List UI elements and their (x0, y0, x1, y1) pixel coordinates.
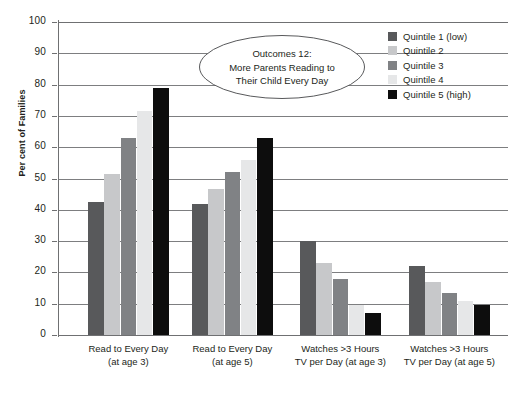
bar (208, 189, 224, 335)
y-tick-label: 90 (2, 46, 46, 57)
x-axis-label-line: TV per Day (at age 5) (389, 355, 509, 368)
x-axis-label-line: TV per Day (at age 3) (280, 355, 400, 368)
y-tick-label: 10 (2, 297, 46, 308)
bar (333, 279, 349, 335)
x-axis-label: Watches >3 HoursTV per Day (at age 5) (389, 342, 509, 368)
y-tick-mark (52, 241, 57, 242)
y-tick-mark (52, 179, 57, 180)
bar (88, 202, 104, 335)
callout-line: Outcomes 12: (198, 47, 366, 61)
bar (409, 266, 425, 335)
y-tick-mark (52, 210, 57, 211)
callout-line: Their Child Every Day (198, 74, 366, 88)
bar (137, 111, 153, 335)
legend-item: Quintile 5 (high) (388, 87, 513, 101)
bar (300, 241, 316, 335)
x-axis-label: Watches >3 HoursTV per Day (at age 3) (280, 342, 400, 368)
bar (425, 282, 441, 335)
y-tick-label: 40 (2, 203, 46, 214)
bar (121, 138, 137, 335)
bar (257, 138, 273, 335)
bar (192, 204, 208, 335)
bar (442, 293, 458, 335)
legend-label: Quintile 5 (high) (403, 89, 471, 100)
y-tick-label: 20 (2, 265, 46, 276)
x-axis-label: Read to Every Day(at age 3) (68, 342, 188, 368)
y-tick-mark (52, 53, 57, 54)
bar (225, 172, 241, 335)
legend-swatch (388, 90, 397, 99)
bar (153, 88, 169, 335)
x-axis-label-line: (at age 5) (172, 355, 292, 368)
y-tick-label: 80 (2, 78, 46, 89)
legend-label: Quintile 2 (403, 45, 444, 56)
legend-label: Quintile 1 (low) (403, 31, 467, 42)
y-tick-mark (52, 272, 57, 273)
y-tick-mark (52, 116, 57, 117)
x-axis-label-line: Read to Every Day (172, 342, 292, 355)
bar (104, 174, 120, 335)
y-tick-label: 30 (2, 234, 46, 245)
bar (458, 301, 474, 335)
legend-label: Quintile 4 (403, 74, 444, 85)
callout-text: Outcomes 12:More Parents Reading toTheir… (198, 47, 366, 88)
legend-item: Quintile 2 (388, 44, 513, 58)
y-tick-label: 70 (2, 109, 46, 120)
y-tick-label: 0 (2, 328, 46, 339)
x-axis-label-line: Read to Every Day (68, 342, 188, 355)
legend-swatch (388, 75, 397, 84)
y-tick-mark (52, 22, 57, 23)
callout-annotation: Outcomes 12:More Parents Reading toTheir… (198, 34, 366, 100)
legend-swatch (388, 32, 397, 41)
legend-item: Quintile 3 (388, 58, 513, 72)
x-axis-label: Read to Every Day(at age 5) (172, 342, 292, 368)
bar (365, 313, 381, 335)
y-tick-mark (52, 147, 57, 148)
x-axis-label-line: Watches >3 Hours (389, 342, 509, 355)
bar (349, 305, 365, 335)
bar (316, 263, 332, 335)
y-tick-label: 50 (2, 172, 46, 183)
legend-label: Quintile 3 (403, 60, 444, 71)
legend-item: Quintile 1 (low) (388, 29, 513, 43)
legend-item: Quintile 4 (388, 73, 513, 87)
x-axis-line (58, 335, 508, 336)
y-tick-label: 100 (2, 15, 46, 26)
bar-chart: Per cent of Families 1009080706050403020… (0, 0, 518, 395)
x-axis-label-line: Watches >3 Hours (280, 342, 400, 355)
legend-swatch (388, 46, 397, 55)
y-tick-mark (52, 85, 57, 86)
bar (474, 305, 490, 335)
bar (241, 160, 257, 335)
y-tick-mark (52, 304, 57, 305)
callout-line: More Parents Reading to (198, 61, 366, 75)
legend-swatch (388, 61, 397, 70)
legend: Quintile 1 (low)Quintile 2Quintile 3Quin… (388, 29, 513, 102)
x-axis-label-line: (at age 3) (68, 355, 188, 368)
y-tick-label: 60 (2, 140, 46, 151)
y-tick-mark (52, 335, 57, 336)
